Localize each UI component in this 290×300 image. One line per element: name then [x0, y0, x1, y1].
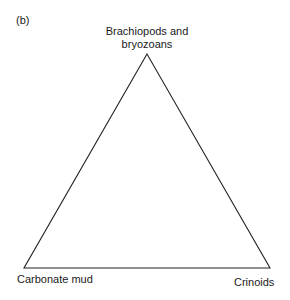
ternary-diagram: (b) Brachiopods and bryozoans Carbonate … — [0, 0, 290, 300]
triangle-shape — [24, 54, 270, 268]
vertex-label-bottom-right: Crinoids — [234, 276, 274, 289]
triangle-outline — [0, 0, 290, 300]
vertex-label-bottom-left: Carbonate mud — [17, 273, 93, 286]
